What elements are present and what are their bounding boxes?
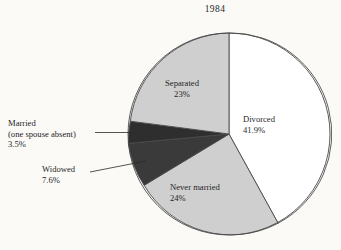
pie-chart-figure: 1984 Separated 23% Divorced 41.9% Never …: [0, 0, 341, 250]
slice-label-divorced-value: 41.9%: [243, 125, 275, 136]
slice-label-never-married: Never married 24%: [170, 182, 220, 203]
slice-label-widowed-value: 7.6%: [42, 175, 75, 186]
slice-label-married-name: Married: [8, 118, 76, 129]
slice-label-separated: Separated 23%: [152, 78, 212, 99]
slice-label-married-name-2: (one spouse absent): [8, 129, 76, 140]
slice-label-married-value: 3.5%: [8, 139, 76, 150]
slice-label-widowed-name: Widowed: [42, 164, 75, 175]
slice-label-never-married-name: Never married: [170, 182, 220, 193]
slice-label-divorced: Divorced 41.9%: [243, 114, 275, 135]
slice-label-married-one-spouse-absent: Married (one spouse absent) 3.5%: [8, 118, 76, 150]
slice-label-separated-name: Separated: [152, 78, 212, 89]
slice-label-widowed: Widowed 7.6%: [42, 164, 75, 185]
slice-label-divorced-name: Divorced: [243, 114, 275, 125]
slice-label-separated-value: 23%: [152, 89, 212, 100]
slice-label-never-married-value: 24%: [170, 193, 220, 204]
